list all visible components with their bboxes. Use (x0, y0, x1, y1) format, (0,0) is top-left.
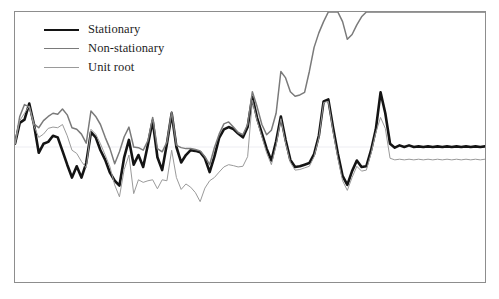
chart-legend: Stationary Non-stationary Unit root (44, 20, 224, 77)
legend-entry-non-stationary[interactable]: Non-stationary (44, 39, 224, 58)
legend-entry-unit-root[interactable]: Unit root (44, 58, 224, 77)
legend-label-unit-root: Unit root (88, 58, 134, 77)
legend-entry-stationary[interactable]: Stationary (44, 20, 224, 39)
legend-label-non-stationary: Non-stationary (88, 39, 164, 58)
legend-label-stationary: Stationary (88, 20, 140, 39)
legend-swatch-unit-root (44, 67, 79, 68)
chart-page: Stationary Non-stationary Unit root (0, 0, 499, 299)
legend-swatch-non-stationary (44, 48, 79, 49)
legend-swatch-stationary (44, 29, 79, 31)
